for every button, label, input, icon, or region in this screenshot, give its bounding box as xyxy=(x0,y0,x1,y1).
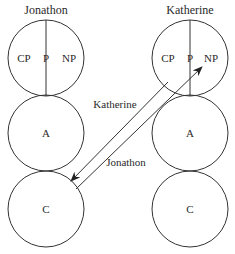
katherine-arrow-label: Katherine xyxy=(93,98,136,110)
jonathon-arrow-label: Jonathon xyxy=(106,156,146,168)
jonathon-adult-label: A xyxy=(42,127,50,139)
katherine-parent-label: P xyxy=(187,52,193,64)
katherine-ego-states: Katherine CP P NP A C xyxy=(152,3,228,247)
jonathon-name-label: Jonathon xyxy=(24,3,67,17)
jonathon-critical-parent-label: CP xyxy=(17,52,30,64)
jonathon-nurturing-parent-label: NP xyxy=(62,52,76,64)
katherine-adult-label: A xyxy=(186,127,194,139)
katherine-critical-parent-label: CP xyxy=(161,52,174,64)
jonathon-child-label: C xyxy=(42,203,49,215)
transactional-analysis-diagram: Jonathon CP P NP A C Katherine CP P NP A… xyxy=(0,0,235,254)
katherine-nurturing-parent-label: NP xyxy=(204,52,218,64)
katherine-name-label: Katherine xyxy=(166,3,213,17)
jonathon-ego-states: Jonathon CP P NP A C xyxy=(8,3,84,247)
katherine-child-label: C xyxy=(186,203,193,215)
jonathon-parent-label: P xyxy=(43,52,49,64)
